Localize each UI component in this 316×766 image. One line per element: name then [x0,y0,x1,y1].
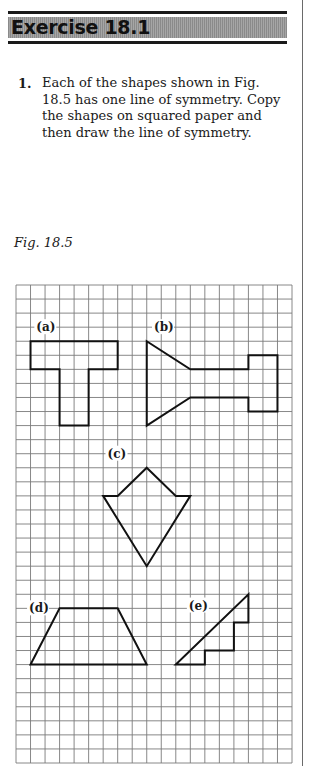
shape-label-e: (e) [189,599,208,613]
shape-e [176,594,249,664]
squared-paper-figure: (a)(b)(c)(d)(e) [0,0,316,766]
shapes [31,341,278,664]
shape-label-c: (c) [108,447,127,461]
shape-label-a: (a) [36,320,55,334]
shape-label-b: (b) [154,320,174,334]
grid-lines [16,285,292,763]
shape-label-d: (d) [29,601,49,615]
